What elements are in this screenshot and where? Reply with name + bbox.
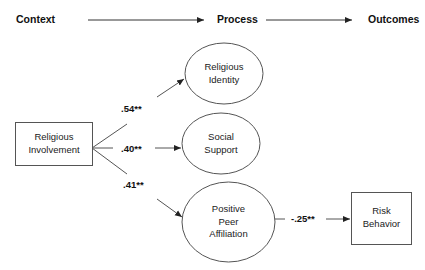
stage-label-context: Context xyxy=(16,13,55,25)
risk-behavior-node: Risk Behavior xyxy=(351,205,412,230)
coefficient-involvement-peer: .41** xyxy=(123,179,144,190)
social-support-label-line-1: Social xyxy=(182,131,260,144)
risk-behavior-label-line-2: Behavior xyxy=(351,218,412,231)
religious-identity-label-line-1: Religious xyxy=(185,61,263,74)
coefficient-peer-risk: -.25** xyxy=(291,213,315,224)
path-involvement-peer-segment-2 xyxy=(157,199,182,217)
social-support-label-line-2: Support xyxy=(182,144,260,157)
stage-label-outcomes: Outcomes xyxy=(368,13,419,25)
positive-peer-affiliation-label-line-3: Affiliation xyxy=(182,228,275,241)
path-involvement-identity-segment-2 xyxy=(157,79,184,97)
religious-involvement-label-line-1: Religious xyxy=(15,131,93,144)
positive-peer-affiliation-label-line-2: Peer xyxy=(182,216,275,229)
risk-behavior-label-line-1: Risk xyxy=(351,205,412,218)
positive-peer-affiliation-node: Positive Peer Affiliation xyxy=(182,203,275,241)
social-support-node: Social Support xyxy=(182,131,260,156)
religious-identity-label-line-2: Identity xyxy=(185,74,263,87)
religious-identity-node: Religious Identity xyxy=(185,61,263,86)
positive-peer-affiliation-label-line-1: Positive xyxy=(182,203,275,216)
stage-label-process: Process xyxy=(217,13,258,25)
religious-involvement-node: Religious Involvement xyxy=(15,131,93,156)
coefficient-involvement-identity: .54** xyxy=(121,103,142,114)
coefficient-involvement-support: .40** xyxy=(121,143,142,154)
religious-involvement-label-line-2: Involvement xyxy=(15,144,93,157)
